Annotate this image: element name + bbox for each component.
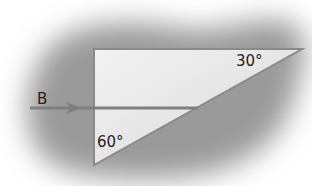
prism-diagram: B 30° 60° <box>0 0 312 186</box>
angle-top-label: 30° <box>236 52 263 70</box>
angle-bottom-label: 60° <box>97 133 124 151</box>
ray-label: B <box>37 90 47 108</box>
